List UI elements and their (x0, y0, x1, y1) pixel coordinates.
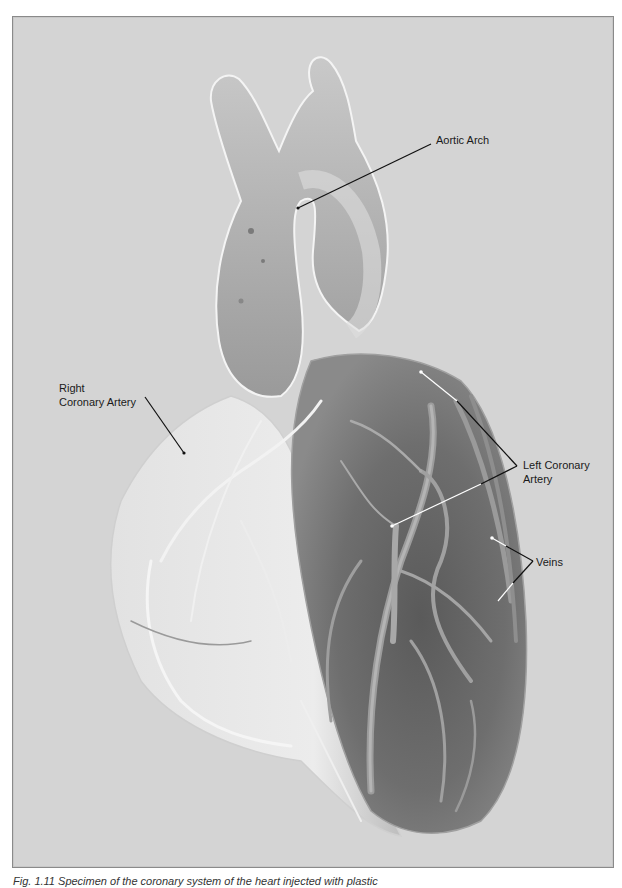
aortic-arch-shape (211, 57, 388, 397)
label-left-coronary-artery-line2: Artery (523, 472, 590, 486)
label-aortic-arch: Aortic Arch (436, 133, 489, 147)
heart-specimen-image (13, 17, 613, 867)
figure-caption: Fig. 1.11 Specimen of the coronary syste… (13, 874, 378, 888)
label-right-coronary-artery-line1: Right (59, 381, 136, 395)
label-left-coronary-artery: Left Coronary Artery (523, 458, 590, 486)
label-left-coronary-artery-line1: Left Coronary (523, 458, 590, 472)
label-right-coronary-artery-line2: Coronary Artery (59, 395, 136, 409)
figure-panel: Aortic Arch Right Coronary Artery Left C… (12, 16, 614, 868)
label-right-coronary-artery: Right Coronary Artery (59, 381, 136, 409)
label-veins: Veins (536, 555, 563, 569)
